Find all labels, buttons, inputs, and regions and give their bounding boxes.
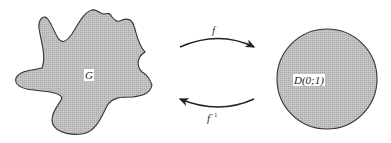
arrow-f (180, 39, 254, 48)
arrow-f-inverse-exponent: −1 (210, 111, 217, 119)
region-d-label: D(0;1) (293, 74, 325, 86)
diagram-canvas (0, 0, 391, 143)
arrow-f-label: f (212, 24, 215, 36)
region-g-label: G (84, 69, 94, 81)
arrow-f-inverse (180, 99, 254, 107)
region-d-disk (277, 29, 377, 129)
arrow-f-inverse-label: f−1 (207, 109, 218, 124)
